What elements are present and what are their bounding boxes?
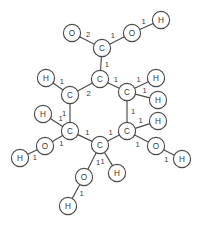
atom-label: O <box>129 29 135 38</box>
atom-h6[interactable]: H <box>149 112 166 129</box>
atom-label: H <box>155 96 161 105</box>
atom-label: O <box>69 29 75 38</box>
atom-c4[interactable]: C <box>118 83 135 100</box>
bond-order-label: 1 <box>139 116 143 125</box>
atom-o3[interactable]: O <box>36 137 53 154</box>
atom-c5[interactable]: C <box>61 122 78 139</box>
atom-label: H <box>179 155 185 164</box>
atom-label: H <box>43 74 49 83</box>
atom-label: H <box>17 154 23 163</box>
atom-h8[interactable]: H <box>173 150 190 167</box>
bond-C6-H10 <box>104 152 112 165</box>
atom-label: C <box>97 141 103 150</box>
atom-h10[interactable]: H <box>108 164 125 181</box>
bond-order-label: 1 <box>101 157 105 166</box>
atom-label: H <box>114 169 120 178</box>
bond-order-label: 1 <box>60 77 64 86</box>
atom-o1[interactable]: O <box>63 24 80 41</box>
atom-label: O <box>81 173 87 182</box>
bond-order-label: 1 <box>111 31 115 40</box>
atom-h7[interactable]: H <box>11 149 28 166</box>
bond-order-label: 1 <box>33 153 37 162</box>
molecule-diagram-canvas: OCOHHCCCHHHCCCHOHOHOHH 21111211111111111… <box>0 0 207 226</box>
atom-h1[interactable]: H <box>152 11 169 28</box>
bond-order-label: 1 <box>80 189 84 198</box>
atom-label: H <box>155 117 161 126</box>
bond-C1-C3 <box>101 57 102 71</box>
atom-h5[interactable]: H <box>34 105 51 122</box>
bond-order-label: 1 <box>131 107 135 116</box>
atom-h4[interactable]: H <box>149 91 166 108</box>
atom-label: O <box>42 142 48 151</box>
atom-label: H <box>158 16 164 25</box>
atom-o2[interactable]: O <box>123 24 140 41</box>
atom-label: O <box>153 142 159 151</box>
atom-label: H <box>65 202 71 211</box>
atom-label: H <box>153 74 159 83</box>
atom-h2[interactable]: H <box>37 69 54 86</box>
bond-order-label: 1 <box>85 128 89 137</box>
atom-c2[interactable]: C <box>61 86 78 103</box>
bond-order-label: 1 <box>164 155 168 164</box>
atom-label: H <box>40 110 46 119</box>
bond-order-label: 1 <box>135 140 139 149</box>
atom-label: C <box>124 88 130 97</box>
atom-label: C <box>97 75 103 84</box>
atom-label: C <box>99 44 105 53</box>
bond-order-label: 2 <box>86 89 90 98</box>
bond-order-label: 1 <box>109 128 113 137</box>
atom-c3[interactable]: C <box>91 70 108 87</box>
atom-c7[interactable]: C <box>118 122 135 139</box>
atom-c1[interactable]: C <box>93 39 110 56</box>
bond-order-label: 1 <box>143 86 147 95</box>
atom-label: C <box>67 127 73 136</box>
atom-o4[interactable]: O <box>147 137 164 154</box>
atom-o5[interactable]: O <box>75 168 92 185</box>
atom-label: C <box>124 127 130 136</box>
bond-order-label: 1 <box>59 139 63 148</box>
bond-order-label: 1 <box>105 60 109 69</box>
atom-label: C <box>67 91 73 100</box>
molecule-graph: OCOHHCCCHHHCCCHOHOHOHH 21111211111111111… <box>0 0 207 226</box>
atom-h9[interactable]: H <box>59 197 76 214</box>
atom-c6[interactable]: C <box>91 136 108 153</box>
bond-order-label: 1 <box>59 114 63 123</box>
bond-C6-O5 <box>88 153 96 170</box>
bond-order-label: 1 <box>137 75 141 84</box>
bond-order-label: 2 <box>86 30 90 39</box>
atom-layer: OCOHHCCCHHHCCCHOHOHOHH <box>11 11 190 214</box>
bond-order-label: 1 <box>141 17 145 26</box>
bond-order-label: 1 <box>114 75 118 84</box>
atom-h3[interactable]: H <box>147 69 164 86</box>
